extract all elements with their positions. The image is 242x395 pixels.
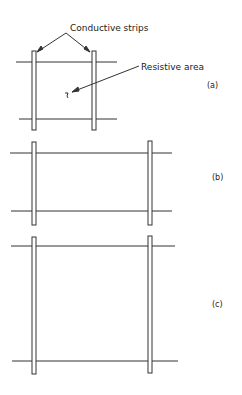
- panel-c-left-strip: [32, 237, 36, 374]
- panel-b-right-strip: [148, 141, 152, 225]
- arrowhead-right-icon: [84, 46, 90, 52]
- arrowhead-resistive-icon: [72, 87, 79, 92]
- arrowhead-left-icon: [37, 46, 43, 52]
- panel-b-left-strip: [32, 142, 36, 225]
- panel-a-label: (a): [207, 81, 218, 90]
- panel-b-label: (b): [212, 173, 223, 182]
- panel-a: [16, 33, 139, 130]
- panel-c-label: (c): [212, 300, 223, 309]
- panel-a-right-strip: [92, 51, 96, 130]
- resistive-area-label: Resistive area: [141, 62, 204, 72]
- panel-c: [11, 236, 178, 374]
- panel-b: [10, 141, 172, 225]
- resistive-area-mark-icon: [65, 93, 68, 98]
- resistive-sheet-diagram: Conductive strips Resistive area (a) (b)…: [0, 0, 242, 395]
- panel-a-left-strip: [32, 51, 36, 130]
- arrow-to-resistive-area: [72, 66, 139, 92]
- conductive-strips-label: Conductive strips: [70, 23, 149, 33]
- panel-c-right-strip: [148, 236, 152, 373]
